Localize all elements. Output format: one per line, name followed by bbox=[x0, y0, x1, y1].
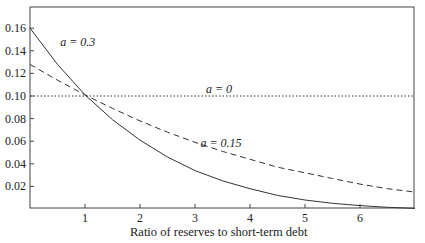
series-annotation: a = 0.15 bbox=[201, 137, 242, 149]
y-tick-label: 0.06 bbox=[0, 135, 26, 147]
y-tick-label: 0.12 bbox=[0, 67, 26, 79]
chart: 0.020.040.060.080.100.120.140.16123456a … bbox=[0, 0, 425, 243]
y-tick-label: 0.14 bbox=[0, 45, 26, 57]
x-tick-label: 1 bbox=[75, 212, 95, 224]
x-tick-label: 4 bbox=[240, 212, 260, 224]
series-annotation: a = 0 bbox=[206, 83, 232, 95]
x-tick-label: 3 bbox=[185, 212, 205, 224]
y-tick-label: 0.16 bbox=[0, 22, 26, 34]
series-line bbox=[30, 28, 415, 208]
y-tick-label: 0.10 bbox=[0, 90, 26, 102]
series-annotation: a = 0.3 bbox=[60, 36, 95, 48]
x-tick-label: 2 bbox=[130, 212, 150, 224]
x-tick-label: 6 bbox=[350, 212, 370, 224]
x-tick-label: 5 bbox=[295, 212, 315, 224]
y-tick-label: 0.02 bbox=[0, 180, 26, 192]
y-tick-label: 0.04 bbox=[0, 158, 26, 170]
y-tick-label: 0.08 bbox=[0, 113, 26, 125]
x-axis-label: Ratio of reserves to short-term debt bbox=[130, 226, 307, 238]
